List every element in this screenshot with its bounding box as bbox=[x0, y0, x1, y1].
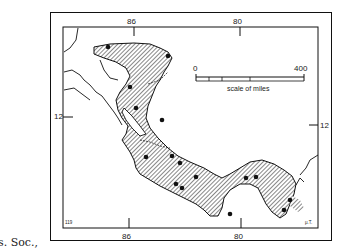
latitude-label-12-left: 12 bbox=[54, 112, 63, 121]
scale-start-label: 0 bbox=[193, 64, 198, 73]
distribution-map: 86 80 86 80 12 12 bbox=[0, 0, 343, 251]
figure-number-label: 119 bbox=[65, 220, 73, 225]
longitude-label-86-top: 86 bbox=[127, 17, 136, 26]
author-initials-label: μ.T. bbox=[305, 220, 312, 225]
latitude-label-12-right: 12 bbox=[320, 121, 329, 130]
scale-end-label: 400 bbox=[294, 64, 308, 73]
longitude-label-80-top: 80 bbox=[233, 17, 242, 26]
scale-caption: scale of miles bbox=[227, 85, 270, 92]
longitude-label-80-bottom: 80 bbox=[234, 232, 243, 241]
longitude-label-86-bottom: 86 bbox=[122, 232, 131, 241]
